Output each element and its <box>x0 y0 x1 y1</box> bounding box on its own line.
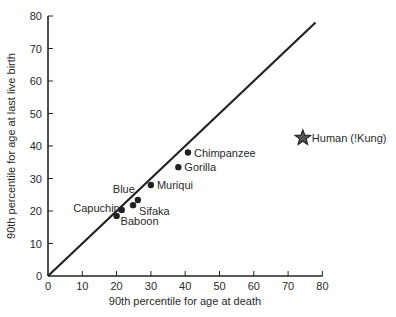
circle-marker-icon <box>175 164 181 170</box>
x-axis-label: 90th percentile for age at death <box>109 295 261 307</box>
point-label: Blue <box>113 183 135 195</box>
reference-line-y-equals-x <box>48 23 316 277</box>
y-tick-label: 70 <box>30 43 42 55</box>
data-point: Gorilla <box>175 161 217 173</box>
star-marker-icon <box>295 130 310 144</box>
x-tick-label: 60 <box>248 280 260 292</box>
y-tick-label: 30 <box>30 173 42 185</box>
circle-marker-icon <box>148 182 154 188</box>
diagonal-line <box>48 23 316 277</box>
point-label: Capuchin <box>73 202 119 214</box>
y-tick-label: 10 <box>30 238 42 250</box>
y-tick-label: 60 <box>30 75 42 87</box>
circle-marker-icon <box>130 202 136 208</box>
data-points: BaboonCapuchinSifakaBlueMuriquiGorillaCh… <box>73 130 386 227</box>
x-tick-label: 50 <box>213 280 225 292</box>
data-point: Capuchin <box>73 202 125 214</box>
data-point: Muriqui <box>148 179 193 191</box>
data-point: Chimpanzee <box>185 147 256 159</box>
y-tick-label: 0 <box>36 270 42 282</box>
x-tick-label: 40 <box>179 280 191 292</box>
circle-marker-icon <box>185 149 191 155</box>
circle-marker-icon <box>135 197 141 203</box>
data-point: Human (!Kung) <box>295 130 386 144</box>
x-tick-label: 0 <box>45 280 51 292</box>
point-label: Muriqui <box>157 179 193 191</box>
point-label: Chimpanzee <box>194 147 256 159</box>
y-tick-label: 80 <box>30 10 42 22</box>
point-label: Gorilla <box>184 161 217 173</box>
y-axis-label: 90th percentile for age at last live bir… <box>5 53 17 239</box>
y-tick-label: 20 <box>30 205 42 217</box>
x-tick-label: 20 <box>110 280 122 292</box>
x-tick-label: 30 <box>145 280 157 292</box>
point-label: Human (!Kung) <box>312 132 387 144</box>
scatter-chart: 0102030405060708001020304050607080 Baboo… <box>0 0 396 317</box>
y-tick-label: 50 <box>30 108 42 120</box>
point-label: Sifaka <box>139 205 170 217</box>
x-tick-label: 70 <box>282 280 294 292</box>
y-tick-label: 40 <box>30 140 42 152</box>
x-tick-label: 10 <box>76 280 88 292</box>
x-tick-label: 80 <box>316 280 328 292</box>
